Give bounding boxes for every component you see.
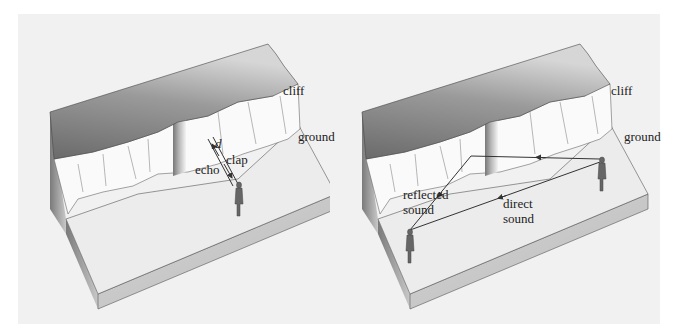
right-diagram-reflection bbox=[330, 14, 660, 324]
label-echo: echo bbox=[195, 163, 220, 176]
left-diagram-echo bbox=[18, 14, 348, 324]
label-distance-d: d bbox=[215, 137, 222, 150]
label-reflected-sound-1: reflected bbox=[403, 188, 448, 201]
figure-canvas bbox=[0, 0, 692, 335]
label-cliff-right: cliff bbox=[611, 84, 632, 97]
label-ground-right: ground bbox=[624, 130, 661, 143]
label-clap: clap bbox=[226, 153, 248, 166]
label-reflected-sound-2: sound bbox=[403, 203, 434, 216]
label-direct-sound-2: sound bbox=[503, 212, 534, 225]
label-cliff-left: cliff bbox=[283, 84, 304, 97]
label-ground-left: ground bbox=[298, 130, 335, 143]
label-direct-sound-1: direct bbox=[503, 197, 533, 210]
